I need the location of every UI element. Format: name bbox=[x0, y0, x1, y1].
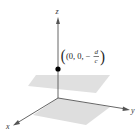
xy-plane bbox=[33, 98, 110, 125]
z-intercept-point bbox=[55, 66, 60, 71]
point-label-numerator: d bbox=[95, 48, 99, 56]
z-arrowhead-icon bbox=[56, 17, 60, 24]
point-label-prefix: (0, 0, − bbox=[66, 51, 91, 61]
point-label-close-paren: ) bbox=[100, 47, 105, 66]
x-arrowhead-icon bbox=[13, 120, 20, 126]
horizontal-plane bbox=[28, 75, 110, 93]
diagram-canvas: z y x ( (0, 0, − d c ) bbox=[0, 0, 138, 135]
y-axis-label: y bbox=[130, 106, 135, 115]
point-label-denominator: c bbox=[95, 57, 99, 65]
point-label-open-paren: ( bbox=[61, 46, 66, 66]
y-arrowhead-icon bbox=[123, 107, 131, 112]
z-axis-label: z bbox=[55, 7, 60, 16]
x-axis-label: x bbox=[5, 122, 10, 131]
